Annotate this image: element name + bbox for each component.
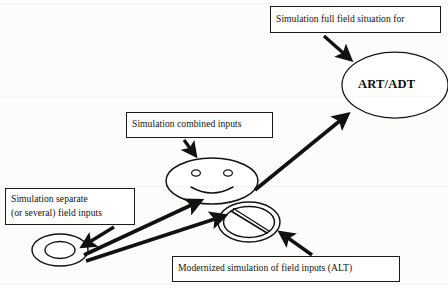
box-combined-line-1: Simulation combined inputs: [132, 118, 242, 130]
oval-inner-ring: [45, 242, 75, 259]
smiley-face-outline: [166, 158, 258, 204]
arrow-full-field-to-art-adt: [324, 36, 350, 59]
box-separate: Simulation separate (or several) field i…: [5, 188, 135, 225]
box-separate-line-1: Simulation separate: [11, 192, 88, 206]
box-separate-line-2: (or several) field inputs: [11, 206, 102, 220]
diagram-graphics-layer: [0, 0, 448, 288]
box-full-field: Simulation full field situation for: [270, 6, 441, 33]
box-full-field-line-1: Simulation full field situation for: [276, 13, 405, 25]
smiley-left-eye-icon: [192, 170, 201, 176]
concentric-oval-node: [32, 234, 88, 266]
arrow-combined-to-smiley: [184, 140, 195, 155]
ellipse-art-adt-label: ART/ADT: [358, 77, 415, 92]
smiley-face-node: [166, 158, 258, 204]
box-combined: Simulation combined inputs: [126, 112, 273, 138]
diagram-canvas: ART/ADT Simulation full field situation …: [0, 0, 448, 288]
box-modernized: Modernized simulation of field inputs (A…: [172, 256, 400, 282]
arrow-modernized-to-prohibition: [281, 233, 312, 255]
box-modernized-line-1: Modernized simulation of field inputs (A…: [178, 262, 352, 274]
prohibition-sign-node: [218, 202, 280, 242]
smiley-right-eye-icon: [224, 170, 233, 176]
